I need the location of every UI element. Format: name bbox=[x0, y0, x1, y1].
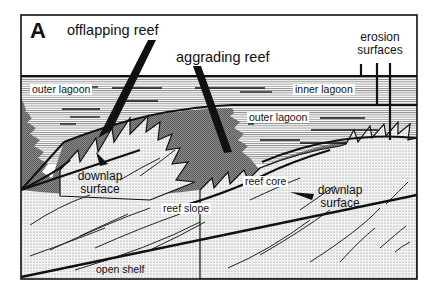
erosion-surfaces-label: erosion surfaces bbox=[350, 31, 410, 56]
offlapping-reef-label: offlapping reef bbox=[67, 23, 159, 38]
outer-lagoon-right-label: outer lagoon bbox=[247, 112, 309, 123]
downlap-surface-right-label: downlap surface bbox=[312, 184, 368, 209]
reef-slope-label: reef slope bbox=[161, 203, 211, 214]
panel-letter: A bbox=[30, 20, 46, 42]
open-shelf-label: open shelf bbox=[96, 264, 144, 275]
outer-lagoon-left-label: outer lagoon bbox=[30, 84, 92, 95]
inner-lagoon-label: inner lagoon bbox=[293, 84, 355, 95]
reef-core-label: reef core bbox=[243, 176, 288, 187]
downlap-surface-left-label: downlap surface bbox=[70, 170, 130, 195]
aggrading-reef-label: aggrading reef bbox=[176, 50, 270, 65]
